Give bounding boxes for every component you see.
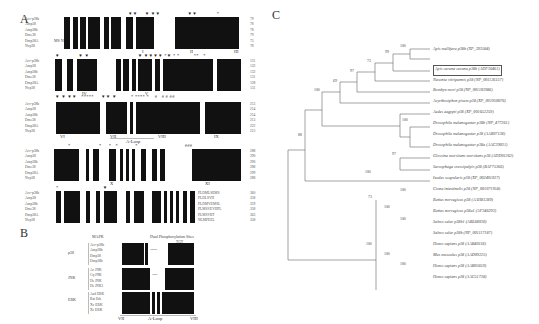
bootstrap-value: 73 xyxy=(367,59,371,63)
bootstrap-value: 100 xyxy=(402,118,408,122)
bootstrap-value: 100 xyxy=(365,170,371,174)
tree-leaf: Sarcophaga crassipalpis p38 (BAF75366) xyxy=(433,164,513,175)
bootstrap-value: 100 xyxy=(384,252,390,256)
tree-leaf: Drosophila melanogaster p38 (AAB97138) xyxy=(433,131,513,142)
tree-leaf-labels: Apis mellifera p38b (XP_393584) Apis cer… xyxy=(433,46,513,285)
tree-leaf: Drosophila melanogaster p38b (NP_477361) xyxy=(433,120,513,131)
tree-leaf: Homo sapiens p38 (AAB40118) xyxy=(433,241,513,252)
tree-leaf: Mus musculus p38 (AAD09225) xyxy=(433,252,513,263)
tree-leaf: Rattus norvegicus p38 (AAH81289) xyxy=(433,197,513,208)
bootstrap-value: 100 xyxy=(314,88,320,92)
bootstrap-value: 99 xyxy=(385,50,389,54)
tree-leaf: Drosophila melanogaster p38a (AAC39031) xyxy=(433,142,513,153)
tree-leaf: Apis mellifera p38b (XP_393584) xyxy=(433,46,513,56)
tree-leaf: Ixodes scapularis p38 (XP_002401037) xyxy=(433,175,513,186)
bootstrap-value: 100 xyxy=(400,188,406,192)
tree-leaf: Bombyx mori p38 (NP_001103986) xyxy=(433,87,513,98)
tree-leaf: Homo sapiens p38 (AAB05659) xyxy=(433,263,513,274)
bootstrap-value: 100 xyxy=(400,262,406,266)
bootstrap-value: 100 xyxy=(400,217,406,221)
bootstrap-value: 88 xyxy=(298,133,302,137)
bootstrap-value: 97 xyxy=(392,152,396,156)
tree-leaf: Aedes aegypti p38 (XP_001652259) xyxy=(433,109,513,120)
bootstrap-value: 69 xyxy=(333,79,337,83)
tree-leaf: Glossina morsitans morsitans p38 (ADD013… xyxy=(433,153,513,164)
tree-leaf: Rattus norvegicus p38a1 (AF346293) xyxy=(433,208,513,219)
bootstrap-value: 100 xyxy=(400,44,406,48)
bootstrap-value: 73 xyxy=(368,195,372,199)
tree-leaf: Acyrthosiphon pisum p38 (XP_001950076) xyxy=(433,98,513,109)
tree-leaf: Ciona intestinalis p38 (NP_001071958) xyxy=(433,186,513,197)
highlighted-tree-leaf: Apis cerana cerana p38b (ADF36461) xyxy=(433,65,502,76)
bootstrap-value: 100 xyxy=(384,205,390,209)
tree-leaf: Salmo salar p38b1 (ABL68030) xyxy=(433,219,513,230)
bootstrap-value: 97 xyxy=(350,69,354,73)
bootstrap-value: 100 xyxy=(366,242,372,246)
tree-leaf: Homo sapiens p38 (AAC51738) xyxy=(433,274,513,285)
tree-leaf: Nasonia vitripennis p38 (NP_001136157) xyxy=(433,77,513,87)
tree-leaf: Salmo salar p38b (NP_001117187) xyxy=(433,230,513,241)
